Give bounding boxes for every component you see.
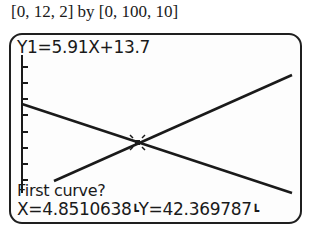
equation-label: Y1=5.91X+13.7 <box>17 37 150 57</box>
graph-line-y1 <box>54 75 292 181</box>
window-settings-caption: [0, 12, 2] by [0, 100, 10] <box>11 2 178 22</box>
cursor-marker-icon: ┗ <box>252 204 259 218</box>
graph-line-y2 <box>22 104 292 193</box>
x-readout: X=4.8510638 <box>17 199 132 219</box>
coordinate-readout: X=4.8510638┗Y=42.369787┗ <box>17 199 259 219</box>
calculator-screen: Y1=5.91X+13.7 First curve? X=4.8510638┗Y… <box>9 33 302 224</box>
y-readout: Y=42.369787 <box>138 199 251 219</box>
first-curve-prompt: First curve? <box>17 181 105 200</box>
